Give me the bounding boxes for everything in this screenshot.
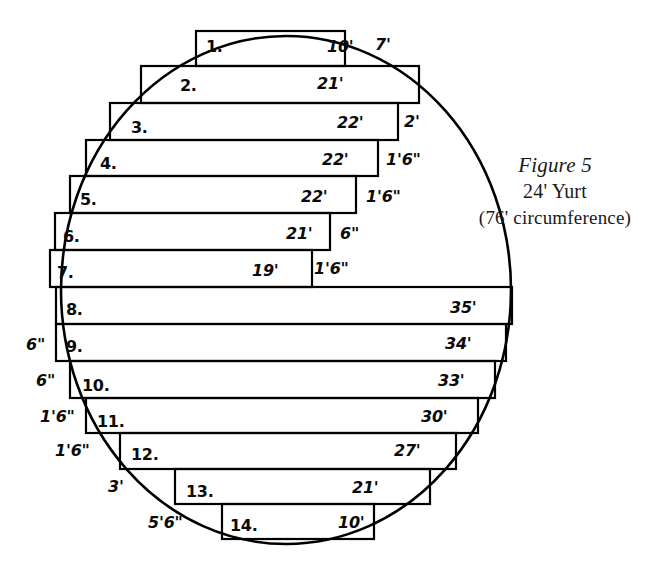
figure-caption-title: Figure 5 — [452, 152, 658, 178]
board-length-12: 27' — [394, 443, 421, 459]
board-length-3: 22' — [337, 115, 364, 131]
board-number-6: 6. — [63, 229, 80, 245]
board-length-1: 10' — [327, 39, 354, 55]
yurt-diagram: 1.10'2.21'3.22'4.22'5.22'6.21'7.19'8.35'… — [0, 0, 658, 571]
board-number-4: 4. — [100, 156, 117, 172]
board-number-11: 11. — [97, 414, 124, 430]
board-length-14: 10' — [338, 515, 365, 531]
board-number-1: 1. — [206, 39, 223, 55]
offset-label-8: 6" — [36, 373, 55, 389]
offset-label-11: 3' — [108, 479, 124, 495]
figure-caption: Figure 5 24' Yurt (76' circumference) — [452, 152, 658, 231]
board-number-12: 12. — [131, 447, 158, 463]
board-number-13: 13. — [186, 484, 213, 500]
figure-caption-subtitle: 24' Yurt — [452, 178, 658, 205]
board-length-9: 34' — [445, 336, 472, 352]
offset-label-12: 5'6" — [148, 515, 183, 531]
board-number-5: 5. — [80, 192, 97, 208]
offset-label-4: 1'6" — [366, 189, 401, 205]
board-rect-9 — [56, 324, 506, 361]
board-number-2: 2. — [180, 78, 197, 94]
board-number-7: 7. — [57, 265, 74, 281]
offset-label-7: 6" — [26, 337, 45, 353]
board-length-11: 30' — [421, 409, 448, 425]
board-length-6: 21' — [286, 226, 313, 242]
board-number-9: 9. — [66, 339, 83, 355]
offset-label-3: 1'6" — [386, 152, 421, 168]
board-number-10: 10. — [82, 378, 109, 394]
board-rect-10 — [70, 361, 495, 398]
board-rect-8 — [56, 287, 512, 324]
offset-label-1: 7' — [375, 37, 391, 53]
offset-label-6: 1'6" — [314, 261, 349, 277]
board-rect-11 — [86, 398, 478, 433]
offset-label-10: 1'6" — [55, 443, 90, 459]
board-number-3: 3. — [131, 120, 148, 136]
board-number-14: 14. — [230, 518, 257, 534]
board-length-5: 22' — [301, 189, 328, 205]
offset-label-5: 6" — [340, 226, 359, 242]
board-length-10: 33' — [438, 373, 465, 389]
offset-label-9: 1'6" — [40, 409, 75, 425]
board-length-7: 19' — [252, 263, 279, 279]
board-length-2: 21' — [317, 76, 344, 92]
yurt-circle-outline — [61, 36, 511, 544]
board-number-8: 8. — [66, 302, 83, 318]
offset-label-2: 2' — [404, 114, 420, 130]
figure-caption-note: (76' circumference) — [452, 205, 658, 231]
board-length-4: 22' — [322, 152, 349, 168]
board-length-8: 35' — [450, 300, 477, 316]
board-length-13: 21' — [352, 480, 379, 496]
